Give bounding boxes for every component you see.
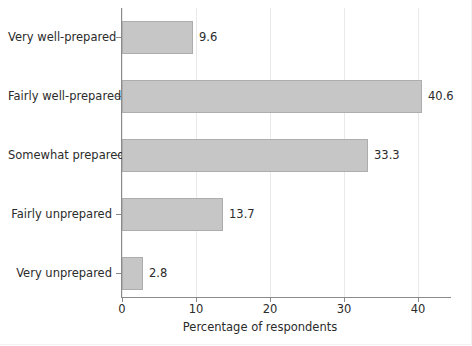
bar-row[interactable]: 13.7 xyxy=(122,198,452,231)
bar-value-very-unprepared: 2.8 xyxy=(149,268,167,280)
bar-row[interactable]: 2.8 xyxy=(122,257,452,290)
bar-fairly-well-prepared[interactable] xyxy=(122,80,422,113)
value-axis-line xyxy=(121,297,451,298)
x-axis-title-wrapper: Percentage of respondents xyxy=(0,322,472,334)
bar-somewhat-prepared[interactable] xyxy=(122,139,368,172)
value-tick-label-30: 30 xyxy=(324,304,364,316)
bar-very-unprepared[interactable] xyxy=(122,257,143,290)
bar-value-fairly-well-prepared: 40.6 xyxy=(428,91,454,103)
bar-row[interactable]: 9.6 xyxy=(122,21,452,54)
value-tick-label-0: 0 xyxy=(102,304,142,316)
x-axis-title: Percentage of respondents xyxy=(183,322,337,334)
value-tick-label-10: 10 xyxy=(176,304,216,316)
category-label-very-unprepared: Very unprepared xyxy=(8,268,112,280)
category-label-somewhat-prepared: Somewhat prepared xyxy=(8,150,112,162)
category-label-fairly-well-prepared: Fairly well-prepared xyxy=(8,91,112,103)
value-tick-label-40: 40 xyxy=(398,304,438,316)
category-label-very-well-prepared: Very well-prepared xyxy=(8,32,112,44)
value-tick-label-20: 20 xyxy=(250,304,290,316)
bar-very-well-prepared[interactable] xyxy=(122,21,193,54)
category-label-fairly-unprepared: Fairly unprepared xyxy=(8,209,112,221)
bar-row[interactable]: 40.6 xyxy=(122,80,452,113)
bar-value-very-well-prepared: 9.6 xyxy=(199,32,217,44)
bar-value-somewhat-prepared: 33.3 xyxy=(374,150,400,162)
bar-chart-figure: #gridlines .gridline { top: 8px; height:… xyxy=(0,0,472,346)
bar-value-fairly-unprepared: 13.7 xyxy=(229,209,255,221)
bar-fairly-unprepared[interactable] xyxy=(122,198,223,231)
bar-row[interactable]: 33.3 xyxy=(122,139,452,172)
